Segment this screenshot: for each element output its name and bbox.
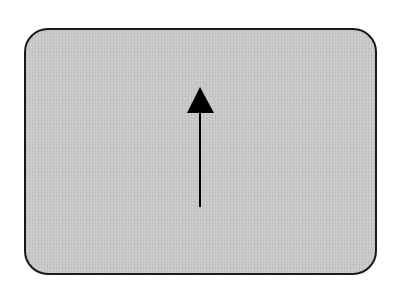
up-arrow-icon	[0, 0, 401, 295]
arrow-head	[187, 87, 214, 113]
